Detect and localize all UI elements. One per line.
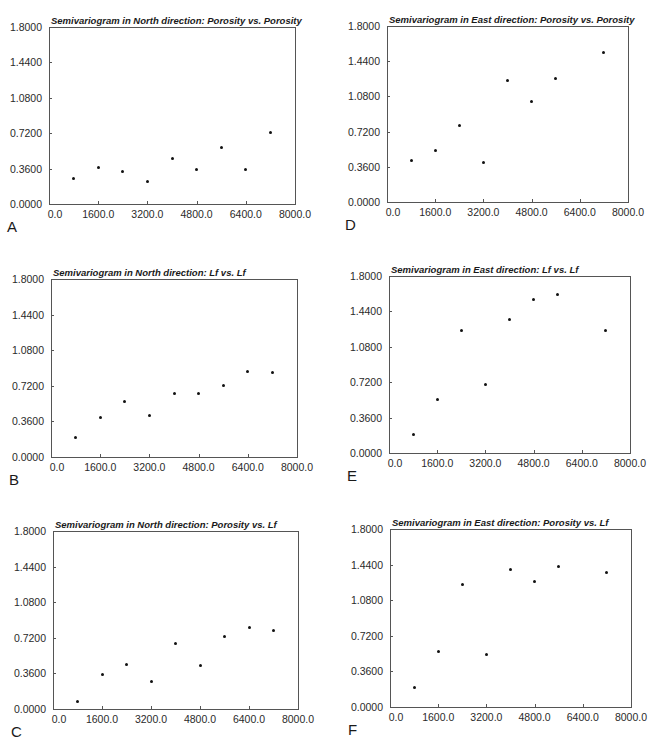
y-tick-label: 1.8000	[340, 20, 380, 32]
x-tick-label: 1600.0	[73, 208, 123, 220]
y-tick-mark	[49, 62, 52, 63]
y-tick-mark	[390, 565, 393, 566]
x-tick-label: 6400.0	[557, 457, 607, 469]
y-tick-mark	[49, 204, 52, 205]
x-tick-label: 8000.0	[270, 208, 320, 220]
x-tick-mark	[248, 454, 249, 457]
y-tick-label: 1.8000	[2, 21, 42, 33]
y-tick-mark	[53, 709, 56, 710]
x-tick-label: 8000.0	[273, 713, 323, 725]
y-tick-label: 0.3600	[343, 665, 383, 677]
y-tick-label: 0.3600	[4, 415, 44, 427]
y-tick-mark	[387, 26, 390, 27]
data-point	[173, 392, 176, 395]
x-tick-label: 3200.0	[126, 713, 176, 725]
x-tick-label: 3200.0	[461, 711, 511, 723]
data-point	[101, 673, 104, 676]
y-tick-label: 1.0800	[340, 90, 380, 102]
x-tick-mark	[49, 201, 50, 204]
x-tick-label: 4800.0	[510, 711, 560, 723]
y-tick-mark	[389, 347, 392, 348]
x-tick-label: 8000.0	[605, 457, 655, 469]
x-tick-mark	[246, 201, 247, 204]
y-tick-label: 1.8000	[4, 273, 44, 285]
y-tick-mark	[51, 315, 54, 316]
x-tick-mark	[199, 454, 200, 457]
y-tick-mark	[387, 96, 390, 97]
x-tick-label: 1600.0	[77, 713, 127, 725]
y-tick-label: 1.4400	[340, 55, 380, 67]
y-tick-mark	[53, 602, 56, 603]
x-tick-mark	[297, 454, 298, 457]
x-tick-mark	[249, 706, 250, 709]
chart-title: Semivariogram in North direction: Porosi…	[51, 15, 302, 26]
x-tick-mark	[532, 199, 533, 202]
x-tick-mark	[149, 454, 150, 457]
y-tick-mark	[49, 133, 52, 134]
y-tick-label: 1.4400	[4, 309, 44, 321]
x-tick-label: 4800.0	[509, 457, 559, 469]
x-tick-mark	[389, 450, 390, 453]
data-point	[76, 700, 79, 703]
y-tick-label: 1.8000	[342, 270, 382, 282]
y-tick-mark	[389, 382, 392, 383]
data-point	[434, 149, 437, 152]
x-tick-mark	[485, 450, 486, 453]
x-tick-mark	[535, 704, 536, 707]
x-tick-mark	[483, 199, 484, 202]
y-tick-label: 1.4400	[6, 561, 46, 573]
y-tick-mark	[389, 453, 392, 454]
data-point	[508, 318, 511, 321]
x-tick-mark	[437, 450, 438, 453]
y-tick-label: 0.7200	[340, 126, 380, 138]
x-tick-mark	[580, 199, 581, 202]
y-tick-mark	[53, 673, 56, 674]
x-tick-label: 8000.0	[603, 206, 653, 218]
x-tick-label: 1600.0	[413, 711, 463, 723]
data-point	[460, 329, 463, 332]
x-tick-mark	[438, 704, 439, 707]
y-tick-mark	[49, 27, 52, 28]
x-tick-mark	[298, 706, 299, 709]
y-tick-label: 1.8000	[343, 523, 383, 535]
panel-label: B	[9, 471, 19, 488]
y-tick-mark	[51, 421, 54, 422]
data-point	[437, 650, 440, 653]
y-tick-label: 1.0800	[343, 594, 383, 606]
x-tick-mark	[387, 199, 388, 202]
x-tick-label: 6400.0	[223, 461, 273, 473]
x-tick-mark	[390, 704, 391, 707]
data-point	[485, 653, 488, 656]
panel-label: F	[348, 721, 357, 738]
y-tick-label: 1.8000	[6, 525, 46, 537]
x-tick-label: 6400.0	[555, 206, 605, 218]
data-point	[146, 180, 149, 183]
y-tick-mark	[389, 276, 392, 277]
x-tick-mark	[53, 706, 54, 709]
data-point	[125, 663, 128, 666]
x-tick-label: 6400.0	[558, 711, 608, 723]
y-tick-label: 1.4400	[343, 559, 383, 571]
plot-frame	[53, 531, 299, 710]
y-tick-label: 1.0800	[4, 344, 44, 356]
plot-frame	[389, 276, 631, 454]
x-tick-label: 1600.0	[75, 461, 125, 473]
x-tick-label: 4800.0	[174, 461, 224, 473]
x-tick-label: 4800.0	[175, 713, 225, 725]
x-tick-mark	[486, 704, 487, 707]
y-tick-mark	[51, 350, 54, 351]
x-tick-label: 4800.0	[172, 208, 222, 220]
y-tick-label: 0.7200	[342, 376, 382, 388]
x-tick-label: 3200.0	[458, 206, 508, 218]
y-tick-label: 0.7200	[6, 632, 46, 644]
data-point	[461, 583, 464, 586]
y-tick-label: 0.3600	[2, 163, 42, 175]
x-tick-label: 3200.0	[122, 208, 172, 220]
y-tick-mark	[390, 529, 393, 530]
y-tick-label: 0.7200	[343, 630, 383, 642]
x-tick-mark	[98, 201, 99, 204]
panel-label: C	[11, 723, 22, 740]
data-point	[533, 580, 536, 583]
x-tick-mark	[197, 201, 198, 204]
y-tick-mark	[51, 457, 54, 458]
